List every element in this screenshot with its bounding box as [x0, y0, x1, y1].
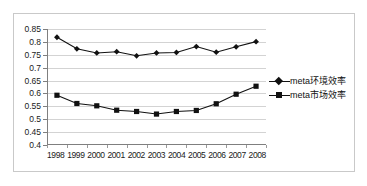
plot-area: 0.40.450.50.550.60.650.70.750.80.85	[47, 29, 266, 145]
series-line	[57, 86, 256, 114]
x-axis-tick	[226, 145, 227, 148]
y-axis-tick-label: 0.4	[29, 141, 41, 150]
x-axis-labels: 1998199920002001200220032004200520062007…	[47, 151, 266, 163]
square-marker-icon	[74, 101, 79, 106]
x-axis-tick	[127, 145, 128, 148]
diamond-marker-icon	[174, 50, 180, 56]
square-marker-icon	[269, 90, 290, 100]
x-axis-tick-label: 1999	[67, 151, 84, 163]
series-2	[54, 84, 258, 117]
diamond-marker-icon	[114, 49, 120, 55]
x-axis-tick-label: 2003	[148, 151, 165, 163]
square-marker-icon	[194, 108, 199, 113]
y-axis-tick-label: 0.5	[29, 115, 41, 124]
y-axis-tick-label: 0.8	[29, 38, 41, 47]
square-marker-icon	[174, 109, 179, 114]
x-axis-tick	[166, 145, 167, 148]
diamond-marker-icon	[134, 53, 140, 59]
x-axis-tick	[147, 145, 148, 148]
chart-frame: 0.40.450.50.550.60.650.70.750.80.85 1998…	[13, 13, 355, 172]
x-axis-tick-label: 2000	[87, 151, 104, 163]
legend-item-market-efficiency[interactable]: meta市场效率	[269, 88, 354, 102]
y-axis-tick-label: 0.85	[24, 25, 41, 34]
y-axis-tick-label: 0.55	[24, 102, 41, 111]
square-marker-icon	[253, 84, 258, 89]
y-axis-tick-label: 0.45	[24, 128, 41, 137]
series-plot	[47, 29, 266, 145]
square-marker-icon	[114, 108, 119, 113]
diamond-marker-icon	[94, 50, 100, 56]
x-axis-tick	[47, 145, 48, 148]
x-axis-tick	[266, 145, 267, 148]
diamond-marker-icon	[154, 50, 160, 56]
x-axis-tick	[246, 145, 247, 148]
legend-item-label: meta市场效率	[290, 91, 346, 100]
diamond-marker-icon	[54, 34, 60, 40]
square-marker-icon	[134, 109, 139, 114]
x-axis-tick-label: 2004	[168, 151, 185, 163]
x-axis-tick-label: 2001	[107, 151, 124, 163]
x-axis-tick	[87, 145, 88, 148]
y-axis-tick-label: 0.75	[24, 51, 41, 60]
legend-item-environmental-efficiency[interactable]: meta环境效率	[269, 74, 354, 88]
x-axis-tick-label: 2002	[128, 151, 145, 163]
x-axis-tick-label: 2005	[188, 151, 205, 163]
x-axis-tick	[67, 145, 68, 148]
diamond-marker-icon	[269, 76, 290, 86]
chart-legend: meta环境效率 meta市场效率	[269, 74, 354, 102]
series-1	[54, 34, 259, 58]
y-axis-tick-label: 0.6	[29, 89, 41, 98]
x-axis-tick-label: 2008	[249, 151, 266, 163]
x-axis-tick-label: 2007	[228, 151, 245, 163]
x-axis-tick	[186, 145, 187, 148]
diamond-marker-icon	[233, 44, 239, 50]
square-marker-icon	[234, 92, 239, 97]
legend-item-label: meta环境效率	[290, 77, 346, 86]
diamond-marker-icon	[213, 49, 219, 55]
square-marker-icon	[214, 101, 219, 106]
y-axis-tick-label: 0.7	[29, 63, 41, 72]
x-axis-tick-label: 1998	[47, 151, 64, 163]
x-axis-tick-label: 2006	[208, 151, 225, 163]
y-axis-tick-label: 0.65	[24, 76, 41, 85]
square-marker-icon	[94, 103, 99, 108]
x-axis-tick	[206, 145, 207, 148]
diamond-marker-icon	[193, 44, 199, 50]
x-axis-tick	[107, 145, 108, 148]
square-marker-icon	[154, 111, 159, 116]
square-marker-icon	[54, 93, 59, 98]
diamond-marker-icon	[253, 39, 259, 45]
diamond-marker-icon	[74, 46, 80, 52]
